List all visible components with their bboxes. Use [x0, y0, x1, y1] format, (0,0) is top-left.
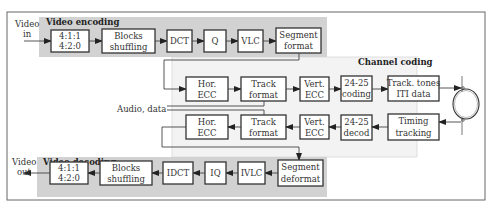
svg-text:Hor.: Hor. [198, 79, 216, 89]
svg-text:Blocks: Blocks [114, 31, 142, 41]
svg-text:4:1:1: 4:1:1 [58, 163, 80, 173]
decoding-block-iq: IQ [205, 162, 226, 184]
decoding-block-segment-deformat: Segment deformat [278, 160, 323, 186]
decoding-block-idct: IDCT [163, 162, 193, 184]
decoding-block-ivlc: IVLC [238, 162, 265, 184]
playback-block-track-format: Track format [241, 115, 286, 139]
svg-text:ECC: ECC [305, 90, 324, 100]
dv-codec-block-diagram: Video encoding Channel coding Video deco… [0, 0, 493, 206]
svg-text:ITI data: ITI data [396, 89, 430, 99]
svg-text:ECC: ECC [305, 128, 324, 138]
channel-coding-panel [172, 57, 417, 157]
video-in-label-2: in [23, 29, 32, 39]
record-block-hor-ecc: Hor. ECC [186, 77, 228, 101]
encoding-block-dct: DCT [167, 30, 192, 52]
svg-text:Segment: Segment [279, 30, 318, 40]
record-block-track-format: Track format [241, 77, 286, 101]
decoding-block-shuffling: Blocks shuffling [100, 161, 152, 185]
svg-text:VLC: VLC [240, 36, 259, 46]
svg-text:DCT: DCT [170, 36, 189, 46]
svg-text:ECC: ECC [197, 128, 216, 138]
svg-text:decod: decod [344, 128, 370, 138]
svg-text:IVLC: IVLC [241, 168, 263, 178]
record-block-track-tones: Track. tones ITI data [387, 76, 441, 101]
svg-text:IQ: IQ [210, 168, 220, 178]
encoding-block-shuffling: Blocks shuffling [102, 29, 155, 53]
svg-text:format: format [249, 90, 278, 100]
svg-text:Vert.: Vert. [303, 117, 325, 127]
svg-text:Track: Track [251, 79, 277, 89]
encoding-block-segment-format: Segment format [276, 28, 321, 53]
playback-block-vert-ecc: Vert. ECC [300, 115, 329, 139]
svg-text:4:1:1: 4:1:1 [59, 31, 81, 41]
svg-text:Track. tones: Track. tones [387, 78, 441, 88]
svg-text:IDCT: IDCT [167, 168, 190, 178]
svg-text:24-25: 24-25 [344, 117, 369, 127]
playback-block-timing-tracking: Timing tracking [388, 114, 439, 140]
playback-block-hor-ecc: Hor. ECC [186, 115, 228, 139]
video-out-label: Video [11, 157, 36, 167]
svg-text:Hor.: Hor. [198, 117, 216, 127]
svg-text:ECC: ECC [197, 90, 216, 100]
audio-data-label: Audio, data [116, 104, 166, 114]
svg-text:format: format [249, 128, 278, 138]
svg-text:Segment: Segment [281, 162, 320, 172]
record-block-vert-ecc: Vert. ECC [300, 77, 329, 101]
svg-text:coding: coding [342, 89, 372, 99]
encoding-block-sampling: 4:1:1 4:2:0 [51, 30, 89, 52]
svg-text:Timing: Timing [398, 116, 429, 126]
svg-text:shuffling: shuffling [110, 42, 148, 52]
svg-text:Q: Q [212, 36, 219, 46]
svg-text:4:2:0: 4:2:0 [59, 41, 81, 51]
video-out-label-2: out [17, 167, 32, 177]
svg-text:Vert.: Vert. [303, 79, 325, 89]
svg-text:shuffling: shuffling [107, 174, 145, 184]
svg-text:Blocks: Blocks [112, 163, 140, 173]
encoding-block-vlc: VLC [238, 30, 263, 52]
svg-text:4:2:0: 4:2:0 [58, 173, 80, 183]
svg-text:deformat: deformat [281, 174, 321, 184]
svg-text:tracking: tracking [395, 128, 432, 138]
video-encoding-title: Video encoding [45, 17, 119, 27]
decoding-block-sampling: 4:1:1 4:2:0 [50, 162, 88, 184]
svg-text:format: format [284, 41, 313, 51]
encoding-block-q: Q [204, 30, 226, 52]
channel-coding-title: Channel coding [358, 57, 433, 67]
record-block-24-25-coding: 24-25 coding [341, 76, 372, 101]
svg-text:Track: Track [251, 117, 277, 127]
video-in-label: Video [14, 19, 39, 29]
svg-text:24-25: 24-25 [344, 78, 369, 88]
playback-block-24-25-decod: 24-25 decod [341, 115, 372, 140]
